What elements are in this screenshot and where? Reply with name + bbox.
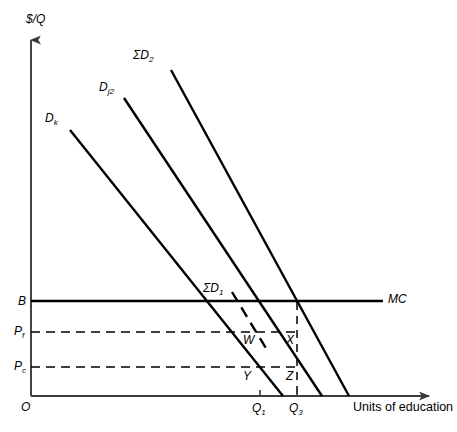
x-axis-label: Units of education [353,401,453,414]
q1-base: Q [252,401,261,415]
curve-label-dk: Dk [45,112,58,127]
pc-base: P [14,359,22,373]
q3-base: Q [289,401,298,415]
curve-label-dj2: Dj2 [99,81,114,96]
point-label-y: Y [243,370,251,382]
curve-sigma-d2 [171,70,349,396]
point-label-z: Z [286,370,293,382]
demand-curves [70,70,349,396]
y-tick-label-pc: Pc [14,360,26,375]
sd1-sub: 1 [219,288,223,297]
dk-sub: k [54,118,58,127]
x-tick-label-q1: Q1 [252,402,266,417]
axis-group [31,40,429,396]
curve-dk [70,130,283,396]
sd1-base: ΣD [203,281,219,295]
curve-label-sigma-d2: ΣD2 [133,49,153,64]
y-axis-label: $/Q [26,13,45,25]
diagram-canvas [0,0,457,432]
pc-sub: c [22,366,26,375]
point-label-w: W [243,334,254,346]
y-tick-label-b: B [18,295,26,307]
guide-lines [31,302,297,396]
sd2-sub: 2 [149,55,153,64]
tick-group [31,301,297,396]
curve-label-mc: MC [388,293,407,305]
x-tick-label-q3: Q3 [289,402,303,417]
q1-sub: 1 [261,408,265,417]
dj2-base: D [99,80,108,94]
curve-dj2 [124,98,322,396]
dk-base: D [45,111,54,125]
sd2-base: ΣD [133,48,149,62]
pf-base: P [14,324,22,338]
point-label-x: X [286,334,294,346]
origin-label: O [21,401,30,413]
y-tick-label-pf: Pf [14,325,24,340]
economics-diagram: $/Q Units of education O B Pf Pc Q1 Q3 D… [0,0,457,432]
q3-sub: 3 [298,408,302,417]
curve-label-sigma-d1: ΣD1 [203,282,223,297]
dj2-sub: j2 [108,87,114,96]
pf-sub: f [22,331,24,340]
